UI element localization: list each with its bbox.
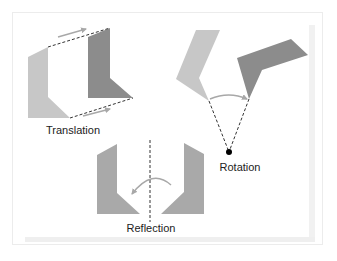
rotation-dashed-left <box>209 101 229 152</box>
translation-arrow-top <box>58 29 86 37</box>
translation-group <box>28 28 133 118</box>
translation-image-shape <box>88 28 133 98</box>
rotation-original-shape <box>176 30 220 101</box>
translation-original-shape <box>28 47 70 118</box>
reflection-left-shape <box>97 144 140 214</box>
rotation-pivot-point <box>226 149 232 155</box>
translation-label: Translation <box>46 124 100 136</box>
rotation-label: Rotation <box>220 161 261 173</box>
translation-dashed-bottom <box>70 98 133 118</box>
reflection-group <box>97 140 204 222</box>
rotation-image-shape <box>237 39 308 99</box>
reflection-right-shape <box>161 143 204 214</box>
rotation-dashed-right <box>229 99 249 152</box>
reflection-arc-arrow <box>132 178 171 194</box>
reflection-label: Reflection <box>127 222 176 234</box>
rotation-group <box>176 30 308 155</box>
rotation-arc-arrow <box>210 95 247 99</box>
